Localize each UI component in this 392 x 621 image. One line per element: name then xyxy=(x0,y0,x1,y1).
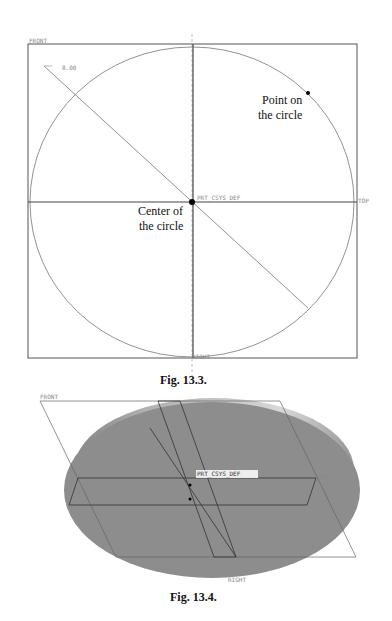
center-point xyxy=(189,199,195,205)
center-annotation-line1: Center of xyxy=(138,204,183,218)
figure-13-4-model: PRT_CSYS_DEF FRONT TOP RIGHT Fig. 13.4. xyxy=(40,393,360,604)
dimension-value: 8.00 xyxy=(62,64,77,71)
csys-label-3d: PRT_CSYS_DEF xyxy=(197,470,241,478)
csys-label: PRT_CSYS_DEF xyxy=(197,194,241,202)
center-point-3d xyxy=(189,498,192,501)
center-annotation-line2: the circle xyxy=(139,219,183,233)
figure-canvas: FRONT TOP RIGHT 8.00 PRT_CSYS_DEF Point … xyxy=(0,0,392,621)
figure-caption: Fig. 13.4. xyxy=(170,590,217,604)
right-plane-label: RIGHT xyxy=(192,353,210,360)
csys-point xyxy=(189,484,192,487)
figure-13-3-sketch: FRONT TOP RIGHT 8.00 PRT_CSYS_DEF Point … xyxy=(28,34,369,387)
point-on-circle xyxy=(306,91,310,95)
point-annotation-line1: Point on xyxy=(262,93,302,107)
front-plane-label: FRONT xyxy=(29,37,47,44)
top-plane-label-3d: TOP xyxy=(318,473,329,480)
point-annotation-line2: the circle xyxy=(258,108,302,122)
front-plane-label-3d: FRONT xyxy=(40,393,58,400)
figure-caption: Fig. 13.3. xyxy=(160,373,207,387)
right-plane-label-3d: RIGHT xyxy=(228,576,246,583)
top-plane-label: TOP xyxy=(358,197,369,204)
